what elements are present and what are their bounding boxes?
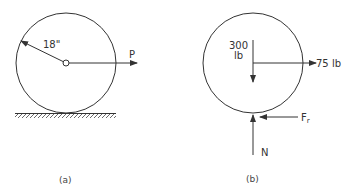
radius-label: 18" <box>43 39 60 50</box>
normal-force-label: N <box>261 147 268 158</box>
force-p-label: P <box>129 49 135 60</box>
friction-label: Fr <box>301 112 310 125</box>
weight-unit: lb <box>234 50 243 61</box>
figure-b: 300 lb 75 lb Fr N (b) <box>203 13 341 184</box>
caption-a: (a) <box>59 175 72 185</box>
caption-b: (b) <box>246 174 259 184</box>
figure-a: 18" P (a) <box>15 13 137 185</box>
diagram-canvas: 18" P (a) 300 lb 75 lb Fr N (b) <box>0 0 349 193</box>
applied-force-label: 75 lb <box>316 58 341 69</box>
axle-a <box>63 60 69 66</box>
ground-hatch <box>15 114 116 118</box>
